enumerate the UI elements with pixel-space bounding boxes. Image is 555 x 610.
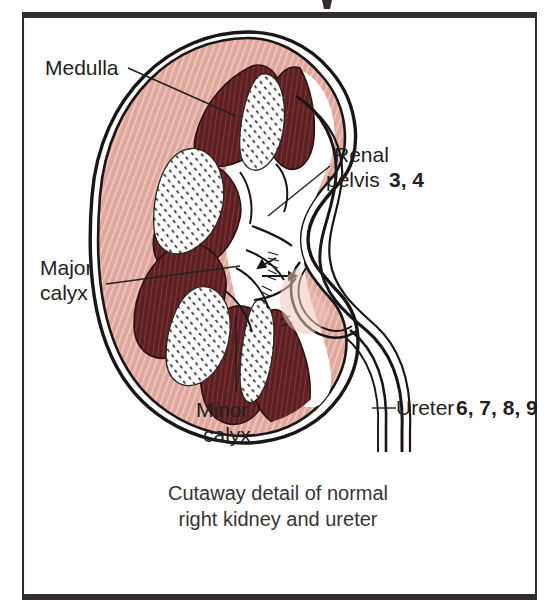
label-ureter-refs: 6, 7, 8, 9 <box>456 396 538 419</box>
label-renal-pelvis-line2: pelvis <box>326 168 380 191</box>
figure-root: Medulla Major calyx Minor calyx Renal pe… <box>0 0 555 610</box>
label-medulla: Medulla <box>45 56 119 79</box>
label-renal-pelvis-line2-group: pelvis 3, 4 <box>326 168 424 191</box>
label-ureter-group: Ureter 6, 7, 8, 9 <box>396 396 538 419</box>
label-renal-pelvis-line1: Renal <box>334 143 389 166</box>
label-renal-pelvis-refs: 3, 4 <box>389 168 424 191</box>
label-major-calyx-line1: Major <box>40 256 93 279</box>
label-ureter: Ureter <box>396 396 454 419</box>
kidney-figure-svg: Medulla Major calyx Minor calyx Renal pe… <box>0 0 555 610</box>
label-minor-calyx-line1: Minor <box>196 398 249 421</box>
caption-line-1: Cutaway detail of normal <box>168 482 388 504</box>
label-minor-calyx-line2: calyx <box>203 423 251 446</box>
caption-line-2: right kidney and ureter <box>178 508 377 530</box>
label-major-calyx-line2: calyx <box>40 281 88 304</box>
